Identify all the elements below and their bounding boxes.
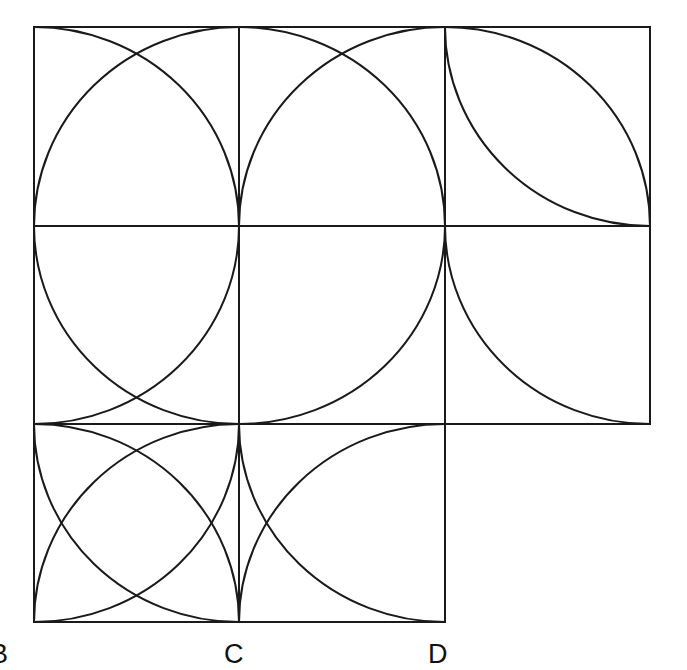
quarter-arc [34, 424, 239, 622]
label-c: C [224, 641, 244, 668]
quarter-arc [34, 27, 239, 226]
label-b: B [0, 641, 8, 668]
quarter-arc [34, 226, 239, 424]
cell-square [34, 424, 239, 622]
quarter-arc [34, 226, 239, 424]
cell-square [34, 27, 239, 226]
quarter-arc [34, 424, 239, 622]
quarter-arc [239, 424, 445, 622]
label-d: D [428, 641, 448, 668]
tiling-diagram [0, 0, 687, 670]
cell-square [445, 226, 650, 424]
cell-square [34, 226, 239, 424]
quarter-arc [239, 226, 445, 424]
quarter-arc [445, 27, 650, 226]
quarter-arc [239, 27, 445, 226]
quarter-arc [239, 27, 445, 226]
quarter-arc [445, 226, 650, 424]
quarter-arc [34, 424, 239, 622]
cell-square [239, 424, 445, 622]
quarter-arc [445, 27, 650, 226]
cell-square [239, 27, 445, 226]
quarter-arc [34, 424, 239, 622]
cell-square [445, 27, 650, 226]
quarter-arc [239, 424, 445, 622]
cell-square [239, 226, 445, 424]
quarter-arc [34, 27, 239, 226]
